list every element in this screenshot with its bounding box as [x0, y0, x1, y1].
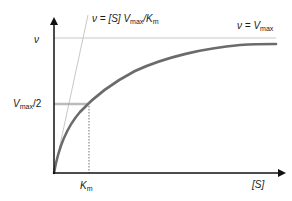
michaelis-menten-diagram: ν ν = [S] Vmax/Km ν = Vmax Vmax/2 Km [S]: [0, 0, 292, 201]
saturation-curve: [54, 44, 276, 173]
tangent-label: ν = [S] Vmax/Km: [92, 13, 159, 25]
vmax-label: ν = Vmax: [237, 20, 274, 32]
x-axis-label: [S]: [251, 179, 264, 190]
km-label: Km: [80, 180, 93, 192]
y-axis-label: ν: [34, 34, 39, 45]
half-vmax-label: Vmax/2: [13, 98, 42, 110]
